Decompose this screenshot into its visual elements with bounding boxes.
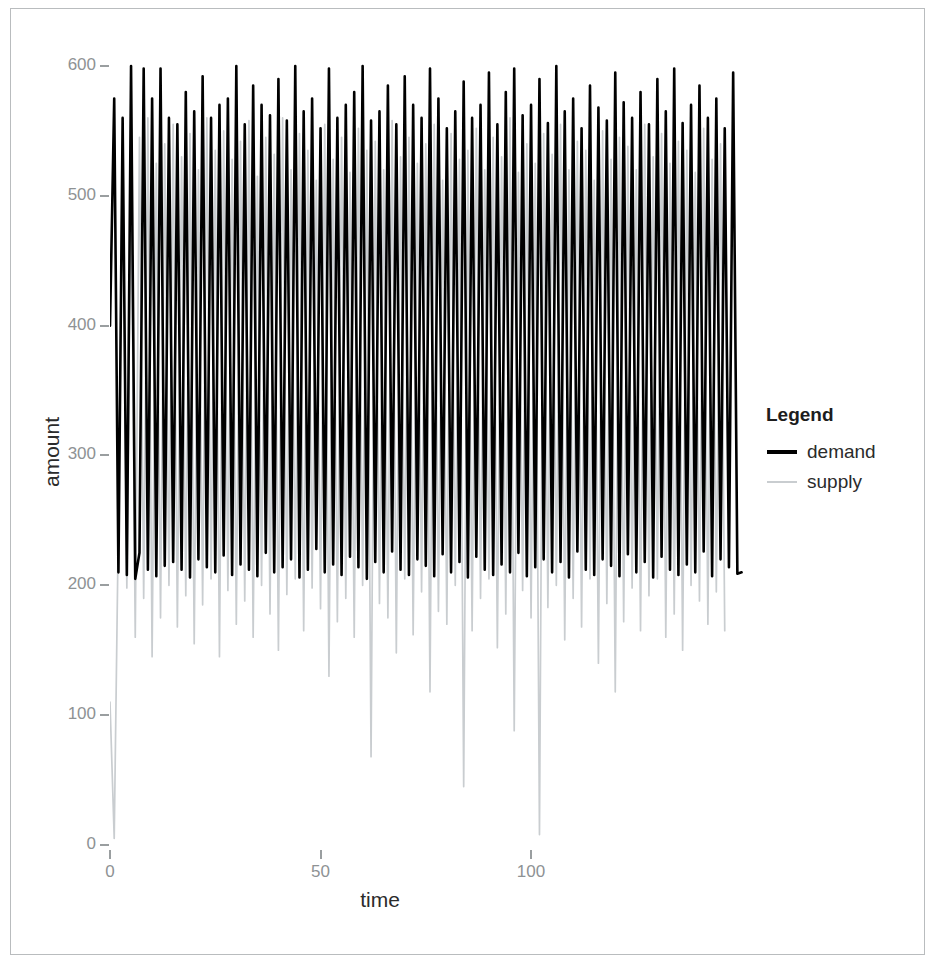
series-canvas (110, 40, 750, 845)
y-tick-label: 100 (40, 704, 96, 724)
x-tick-mark (320, 850, 322, 859)
legend-item-demand[interactable]: demand (766, 437, 916, 467)
y-axis-title: amount (40, 382, 64, 522)
legend-items: demandsupply (766, 437, 916, 497)
legend-key-line (767, 481, 797, 483)
x-tick-mark (530, 850, 532, 859)
x-tick-label: 50 (291, 862, 351, 882)
plot-panel (110, 40, 750, 845)
legend-label: demand (807, 441, 876, 463)
y-tick-mark (100, 325, 109, 327)
y-tick-mark (100, 454, 109, 456)
y-tick-label: 400 (40, 315, 96, 335)
series-line-demand (110, 66, 742, 579)
y-tick-mark (100, 195, 109, 197)
y-tick-label: 0 (40, 834, 96, 854)
y-tick-mark (100, 65, 109, 67)
legend-key-line (767, 450, 797, 454)
legend-title: Legend (766, 404, 916, 426)
y-tick-mark (100, 714, 109, 716)
y-tick-label: 500 (40, 185, 96, 205)
x-tick-mark (109, 850, 111, 859)
chart-plot-area: 0100200300400500600 050100 amount time L… (0, 0, 940, 971)
legend-key-demand-icon (766, 441, 798, 463)
y-tick-mark (100, 844, 109, 846)
y-tick-label: 200 (40, 574, 96, 594)
legend-key-supply-icon (766, 471, 798, 493)
x-tick-label: 0 (80, 862, 140, 882)
legend-label: supply (807, 471, 862, 493)
legend-item-supply[interactable]: supply (766, 467, 916, 497)
x-axis-title: time (0, 888, 760, 912)
screenshot-root: 0100200300400500600 050100 amount time L… (0, 0, 940, 971)
y-tick-label: 600 (40, 55, 96, 75)
x-tick-label: 100 (501, 862, 561, 882)
legend: Legend demandsupply (766, 404, 916, 497)
y-tick-mark (100, 584, 109, 586)
